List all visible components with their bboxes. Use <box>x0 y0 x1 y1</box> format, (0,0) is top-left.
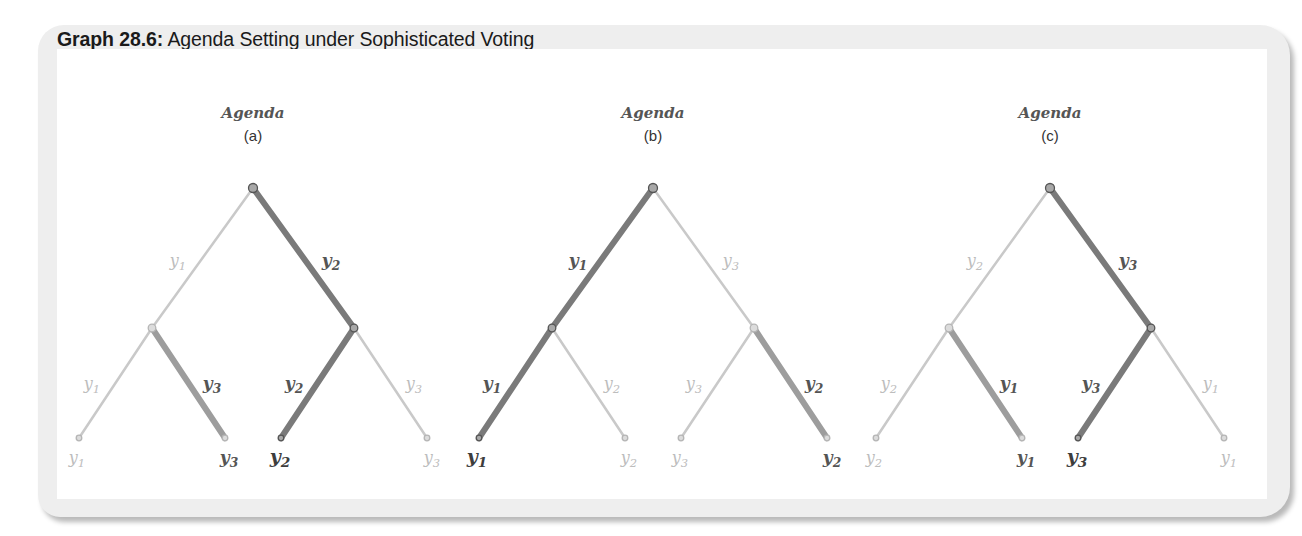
mid-node-left <box>548 324 556 332</box>
leaf-node <box>824 435 830 441</box>
leaf-node <box>1075 435 1081 441</box>
mid-node-left <box>148 324 156 332</box>
agenda-trees: Agenda(a)y1y2y1y3y2y3y1y3y2y3Agenda(b)y1… <box>0 0 1302 536</box>
edge-top-left <box>949 188 1050 328</box>
agenda-subheading: (a) <box>244 127 262 144</box>
leaf-label: y3 <box>423 448 440 470</box>
edge-label-left-left: y2 <box>880 374 897 396</box>
edge-label-right-right: y2 <box>804 373 823 396</box>
leaf-node <box>76 435 82 441</box>
leaf-node <box>424 435 430 441</box>
tree-b: Agenda(b) <box>476 104 830 441</box>
edge-label-right-right: y1 <box>1202 374 1219 396</box>
leaf-label: y1 <box>68 448 85 470</box>
leaf-label: y2 <box>620 448 637 470</box>
leaf-label: y1 <box>1220 448 1237 470</box>
leaf-label: y2 <box>865 448 882 470</box>
leaf-label: y2 <box>822 447 841 470</box>
root-node <box>1046 184 1055 193</box>
edge-label-top-right: y3 <box>722 251 739 273</box>
edge-top-left <box>552 188 653 328</box>
edge-top-left <box>152 188 253 328</box>
edge-label-top-left: y2 <box>966 251 983 273</box>
leaf-node <box>1221 435 1227 441</box>
leaf-label: y1 <box>466 445 488 470</box>
leaf-node <box>1019 435 1025 441</box>
edge-label-left-right: y2 <box>603 374 620 396</box>
edge-top-right <box>653 188 754 328</box>
root-node <box>249 184 258 193</box>
edge-label-left-right: y1 <box>999 373 1018 396</box>
mid-node-right <box>350 324 358 332</box>
leaf-label: y3 <box>671 448 688 470</box>
edge-top-right <box>1050 188 1151 328</box>
edge-label-top-right: y2 <box>321 250 340 273</box>
agenda-heading: Agenda <box>1017 104 1082 122</box>
edge-label-top-left: y1 <box>568 250 587 273</box>
leaf-label: y1 <box>1016 447 1035 470</box>
edge-label-left-left: y1 <box>83 374 100 396</box>
agenda-subheading: (b) <box>644 127 662 144</box>
edge-label-top-right: y3 <box>1118 250 1138 273</box>
edge-label-right-left: y3 <box>1081 373 1101 396</box>
agenda-heading: Agenda <box>220 104 285 122</box>
leaf-node <box>873 435 879 441</box>
edge-label-left-left: y1 <box>482 373 501 396</box>
tree-c: Agenda(c) <box>873 104 1227 441</box>
agenda-subheading: (c) <box>1041 127 1059 144</box>
leaf-node <box>278 435 284 441</box>
edge-label-top-left: y1 <box>169 251 186 273</box>
edge-label-right-left: y3 <box>685 374 702 396</box>
mid-node-right <box>1147 324 1155 332</box>
leaf-node <box>678 435 684 441</box>
leaf-label: y3 <box>1066 445 1088 470</box>
leaf-label: y2 <box>269 445 291 470</box>
root-node <box>649 184 658 193</box>
leaf-node <box>222 435 228 441</box>
edge-top-right <box>253 188 354 328</box>
mid-node-left <box>945 324 953 332</box>
leaf-node <box>476 435 482 441</box>
mid-node-right <box>750 324 758 332</box>
edge-label-right-left: y2 <box>284 373 303 396</box>
tree-a: Agenda(a) <box>76 104 430 441</box>
leaf-label: y3 <box>219 447 239 470</box>
agenda-heading: Agenda <box>620 104 685 122</box>
edge-label-left-right: y3 <box>202 373 222 396</box>
edge-label-right-right: y3 <box>405 374 422 396</box>
leaf-node <box>622 435 628 441</box>
